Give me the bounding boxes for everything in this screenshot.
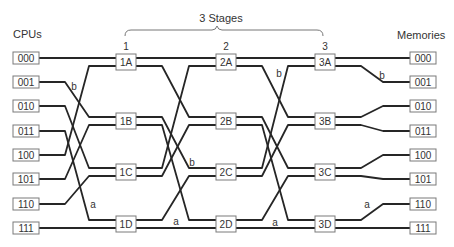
svg-text:100: 100 — [18, 150, 35, 161]
wire-stage-1-3-to-stage-2-6 — [136, 125, 216, 220]
svg-text:1D: 1D — [120, 219, 133, 230]
wire-stage-3-4-to-memories-4 — [335, 155, 410, 168]
svg-text:1A: 1A — [120, 57, 133, 68]
stages-title: 3 Stages — [199, 12, 243, 24]
omega-network-diagram: CPUs Memories 3 Stages 1 2 3 b a b a b a… — [0, 0, 454, 247]
wire-stage-3-5-to-memories-5 — [335, 176, 410, 179]
wire-stage-3-6-to-memories-6 — [335, 204, 410, 220]
switch-1A: 1A — [116, 54, 136, 70]
wire-labels: b a b a b a b a — [71, 68, 385, 228]
stage-3-switches: 3A 3B 3C 3D — [315, 54, 335, 232]
wire-cpus-5-to-stage-1-3 — [39, 125, 116, 179]
wire-cpus-4-to-stage-1-1 — [39, 66, 116, 155]
stages-brace — [125, 26, 323, 36]
memory-column: 000 001 010 011 100 101 110 111 — [410, 52, 436, 234]
cpu-box-010: 010 — [13, 100, 39, 112]
svg-text:101: 101 — [18, 174, 35, 185]
svg-text:111: 111 — [415, 223, 431, 234]
memory-box-001: 001 — [410, 76, 436, 88]
wire-stage-3-1-to-memories-1 — [335, 66, 410, 82]
svg-text:2A: 2A — [220, 57, 233, 68]
switch-3B: 3B — [315, 113, 335, 129]
stage-number-2: 2 — [223, 41, 229, 52]
wire-stage-2-6-to-stage-3-5 — [236, 176, 315, 220]
svg-text:011: 011 — [415, 126, 431, 137]
cpu-box-101: 101 — [13, 173, 39, 185]
stage-2-switches: 2A 2B 2C 2D — [216, 54, 236, 232]
svg-text:110: 110 — [415, 199, 431, 210]
wire-stage-1-6-to-stage-2-5 — [136, 176, 216, 220]
svg-text:2B: 2B — [220, 116, 233, 127]
wire-stage-2-3-to-stage-3-6 — [236, 125, 315, 220]
wire-label-b: b — [276, 68, 282, 79]
wire-label-b: b — [71, 81, 77, 92]
cpu-column: 000 001 010 011 100 101 110 111 — [13, 52, 39, 234]
svg-text:3B: 3B — [319, 116, 332, 127]
switch-2B: 2B — [216, 113, 236, 129]
svg-text:3A: 3A — [319, 57, 332, 68]
svg-text:001: 001 — [18, 77, 35, 88]
wire-label-a: a — [364, 199, 370, 210]
svg-text:000: 000 — [18, 53, 35, 64]
svg-text:3C: 3C — [319, 167, 332, 178]
memory-box-011: 011 — [410, 125, 436, 137]
svg-text:3D: 3D — [319, 219, 332, 230]
wire-stage-3-3-to-memories-3 — [335, 125, 410, 131]
wire-label-a: a — [272, 217, 278, 228]
switch-2A: 2A — [216, 54, 236, 70]
switch-3C: 3C — [315, 164, 335, 180]
stage-number-3: 3 — [322, 41, 328, 52]
switch-1D: 1D — [116, 216, 136, 232]
stage-1-switches: 1A 1B 1C 1D — [116, 54, 136, 232]
wire-label-b: b — [189, 157, 195, 168]
cpu-box-110: 110 — [13, 198, 39, 210]
svg-text:010: 010 — [415, 101, 432, 112]
wire-label-a: a — [90, 199, 96, 210]
svg-text:001: 001 — [415, 77, 432, 88]
wire-stage-1-1-to-stage-2-2 — [136, 66, 216, 117]
memory-box-010: 010 — [410, 100, 436, 112]
wire-label-b: b — [379, 70, 385, 81]
svg-text:000: 000 — [415, 53, 432, 64]
switch-1C: 1C — [116, 164, 136, 180]
memories-heading: Memories — [397, 29, 446, 41]
svg-text:1B: 1B — [120, 116, 133, 127]
switch-2D: 2D — [216, 216, 236, 232]
svg-text:011: 011 — [18, 126, 34, 137]
cpu-box-000: 000 — [13, 52, 39, 64]
svg-text:101: 101 — [415, 174, 432, 185]
memory-box-000: 000 — [410, 52, 436, 64]
svg-text:111: 111 — [18, 223, 34, 234]
svg-text:2D: 2D — [220, 219, 233, 230]
memory-box-100: 100 — [410, 149, 436, 161]
switch-3A: 3A — [315, 54, 335, 70]
wire-label-a: a — [173, 216, 179, 227]
cpu-box-001: 001 — [13, 76, 39, 88]
svg-text:110: 110 — [18, 199, 34, 210]
svg-text:010: 010 — [18, 101, 35, 112]
svg-text:100: 100 — [415, 150, 432, 161]
cpus-heading: CPUs — [13, 28, 42, 40]
memory-box-101: 101 — [410, 173, 436, 185]
cpu-box-100: 100 — [13, 149, 39, 161]
wire-cpus-2-to-stage-1-4 — [39, 106, 116, 168]
switch-2C: 2C — [216, 164, 236, 180]
switch-1B: 1B — [116, 113, 136, 129]
memory-box-111: 111 — [410, 222, 436, 234]
svg-text:1C: 1C — [120, 167, 133, 178]
cpu-box-011: 011 — [13, 125, 39, 137]
svg-text:2C: 2C — [220, 167, 233, 178]
cpu-box-111: 111 — [13, 222, 39, 234]
stage-number-1: 1 — [123, 41, 129, 52]
wire-stage-3-2-to-memories-2 — [335, 106, 410, 117]
memory-box-110: 110 — [410, 198, 436, 210]
switch-3D: 3D — [315, 216, 335, 232]
